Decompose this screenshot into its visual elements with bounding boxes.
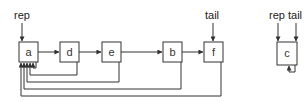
node-b: b [163, 42, 182, 62]
node-e-label: e [108, 46, 114, 58]
node-a: a [19, 42, 38, 62]
tail-label-set1: tail [205, 9, 219, 21]
node-f: f [204, 42, 223, 62]
tail-label-set2: tail [288, 9, 302, 21]
rep-label-set2: rep [269, 9, 285, 21]
linked-list-diagram: rep tail a d e b f rep tail c [0, 0, 306, 102]
node-e: e [102, 42, 121, 62]
rep-arrow-d-a [30, 62, 77, 75]
node-c-label: c [284, 47, 290, 59]
node-a-label: a [25, 46, 32, 58]
rep-label-set1: rep [14, 9, 30, 21]
node-b-label: b [169, 46, 175, 58]
rep-arrow-e-a [27, 62, 119, 82]
rep-arrow-f-a [21, 62, 221, 96]
rep-arrow-c-self [289, 65, 295, 72]
node-c: c [277, 42, 297, 65]
node-d: d [60, 42, 79, 62]
node-d-label: d [66, 46, 72, 58]
rep-arrow-a-self [33, 62, 36, 68]
